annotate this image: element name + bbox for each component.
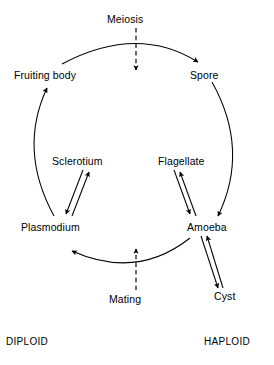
edge-sclerotium-to-plasmodium — [66, 170, 83, 214]
node-label-fruiting-body: Fruiting body — [14, 70, 76, 81]
life-cycle-diagram — [0, 0, 274, 365]
edge-amoeba-to-plasmodium — [72, 238, 190, 263]
ploidy-label-haploid: HAPLOID — [204, 337, 250, 347]
node-label-meiosis: Meiosis — [107, 14, 143, 25]
node-label-cyst: Cyst — [214, 291, 235, 302]
node-label-amoeba: Amoeba — [187, 222, 227, 233]
node-label-flagellate: Flagellate — [158, 156, 205, 167]
edge-spore-to-amoeba — [212, 82, 233, 216]
node-label-plasmodium: Plasmodium — [21, 222, 80, 233]
ploidy-label-diploid: DIPLOID — [6, 337, 48, 347]
node-label-sclerotium: Sclerotium — [52, 156, 103, 167]
edge-plasmodium-to-sclerotium — [72, 172, 89, 216]
node-label-mating: Mating — [109, 294, 141, 305]
edge-plasmodium-to-fruiting-body — [34, 88, 54, 216]
node-label-spore: Spore — [190, 70, 219, 81]
edge-fruiting-body-to-spore — [62, 43, 198, 64]
